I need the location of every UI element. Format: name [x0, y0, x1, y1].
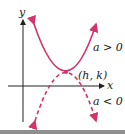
- vertex-point: [64, 70, 68, 74]
- parabola-diagram: y x (h, k) a > 0 a < 0: [0, 0, 125, 134]
- vertex-label: (h, k): [78, 69, 107, 82]
- bottom-border: [0, 130, 125, 134]
- x-axis-label: x: [107, 79, 114, 92]
- downward-curve-label: a < 0: [93, 95, 123, 108]
- y-axis-label: y: [18, 6, 26, 19]
- upward-parabola: [34, 24, 96, 71]
- upward-curve-label: a > 0: [93, 41, 123, 54]
